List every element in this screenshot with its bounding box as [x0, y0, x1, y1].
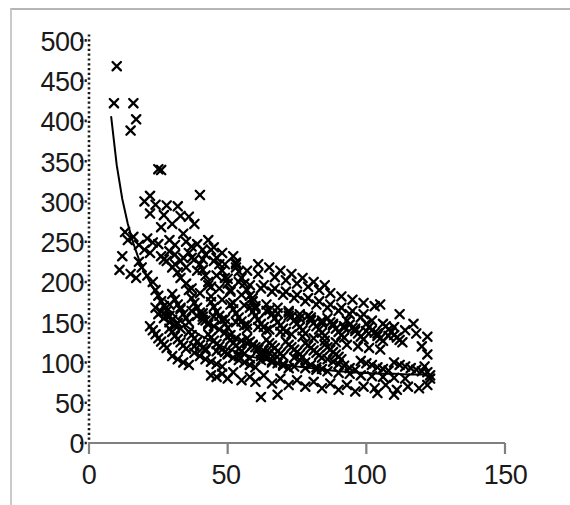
data-point: [398, 338, 406, 346]
data-point: [276, 328, 284, 336]
data-point: [412, 329, 420, 337]
data-point: [271, 273, 279, 281]
data-point: [301, 297, 309, 305]
data-point: [196, 191, 204, 199]
data-point: [129, 99, 137, 107]
data-point: [257, 393, 265, 401]
data-point: [312, 300, 320, 308]
data-point: [365, 344, 373, 352]
data-point: [279, 352, 287, 360]
data-point: [162, 344, 170, 352]
data-point: [359, 299, 367, 307]
data-point: [115, 266, 123, 274]
data-point: [140, 197, 148, 205]
data-point: [157, 223, 165, 231]
data-point: [293, 279, 301, 287]
data-point: [401, 374, 409, 382]
axis-layer: [80, 34, 505, 454]
data-point: [318, 384, 326, 392]
data-point: [362, 327, 370, 335]
data-points-layer: [110, 62, 435, 401]
data-point: [382, 381, 390, 389]
data-point: [423, 333, 431, 341]
data-point: [384, 332, 392, 340]
data-point: [174, 202, 182, 210]
data-point: [357, 313, 365, 321]
data-point: [376, 345, 384, 353]
data-point: [237, 291, 245, 299]
data-point: [118, 252, 126, 260]
data-point: [343, 381, 351, 389]
data-point: [279, 291, 287, 299]
data-point: [212, 271, 220, 279]
data-point: [185, 213, 193, 221]
data-point: [196, 289, 204, 297]
data-point: [132, 115, 140, 123]
data-point: [401, 326, 409, 334]
data-point: [254, 270, 262, 278]
data-point: [309, 378, 317, 386]
data-point: [121, 228, 129, 236]
data-point: [254, 260, 262, 268]
data-point: [326, 289, 334, 297]
data-point: [359, 382, 367, 390]
data-point: [168, 220, 176, 228]
data-point: [162, 201, 170, 209]
data-point: [404, 382, 412, 390]
data-point: [323, 304, 331, 312]
data-point: [326, 379, 334, 387]
data-point: [337, 292, 345, 300]
data-point: [268, 379, 276, 387]
data-point: [260, 371, 268, 379]
data-point: [284, 381, 292, 389]
data-point: [351, 387, 359, 395]
data-point: [304, 283, 312, 291]
data-point: [151, 200, 159, 208]
data-point: [254, 323, 262, 331]
data-point: [418, 342, 426, 350]
data-point: [415, 384, 423, 392]
data-point: [243, 266, 251, 274]
data-point: [204, 236, 212, 244]
data-point: [218, 249, 226, 257]
data-point: [190, 220, 198, 228]
data-point: [354, 342, 362, 350]
data-point: [207, 246, 215, 254]
data-point: [176, 212, 184, 220]
data-point: [315, 286, 323, 294]
data-point: [332, 338, 340, 346]
data-point: [179, 229, 187, 237]
data-point: [276, 374, 284, 382]
data-point: [290, 294, 298, 302]
data-point: [160, 211, 168, 219]
data-point: [379, 320, 387, 328]
data-point: [309, 334, 317, 342]
data-point: [215, 284, 223, 292]
data-point: [218, 295, 226, 303]
data-point: [113, 62, 121, 70]
data-point: [334, 307, 342, 315]
data-point: [359, 335, 367, 343]
data-point: [207, 292, 215, 300]
data-point: [268, 287, 276, 295]
data-point: [265, 263, 273, 271]
data-point: [282, 276, 290, 284]
data-point: [110, 99, 118, 107]
data-point: [126, 126, 134, 134]
data-point: [273, 390, 281, 398]
data-point: [301, 382, 309, 390]
data-point: [395, 310, 403, 318]
data-point: [237, 376, 245, 384]
data-point: [251, 378, 259, 386]
data-point: [229, 368, 237, 376]
data-point: [423, 350, 431, 358]
data-point: [409, 320, 417, 328]
data-point: [257, 284, 265, 292]
data-point: [293, 376, 301, 384]
data-point: [146, 209, 154, 217]
data-point: [334, 386, 342, 394]
data-point: [182, 345, 190, 353]
data-point: [348, 295, 356, 303]
